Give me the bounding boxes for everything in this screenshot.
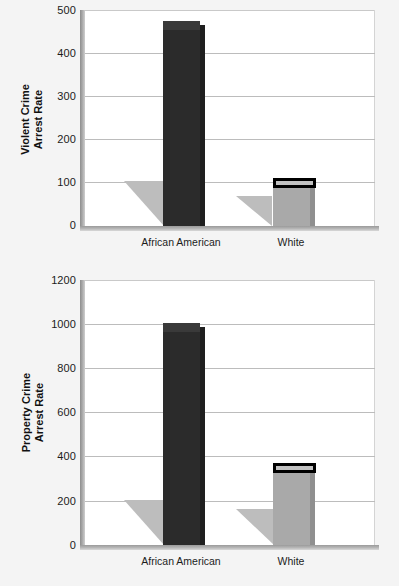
y-tick-property-1000: 1000	[42, 318, 76, 330]
y-tick-violent-400: 400	[48, 47, 76, 59]
x-label-white-property: White	[246, 555, 336, 567]
y-tick-property-1200: 1200	[42, 274, 76, 286]
bar-front-face-white-property	[273, 467, 310, 545]
plot-right-border-violent	[374, 10, 375, 226]
gridline-400-violent	[84, 53, 375, 54]
bar-side-face-african-american-violent	[200, 25, 205, 226]
y-axis-title-property: Property Crime Arrest Rate	[20, 363, 45, 463]
x-label-white-violent: White	[246, 236, 336, 248]
y-tick-violent-300: 300	[48, 90, 76, 102]
y-tick-property-600: 600	[42, 406, 76, 418]
bar-side-face-white-property	[310, 467, 315, 545]
bar-shadow-white-violent	[236, 196, 272, 226]
y-axis-wall-property	[80, 280, 85, 549]
bar-front-face-african-american-violent	[163, 25, 200, 226]
y-axis-wall-violent	[80, 10, 85, 230]
y-tick-violent-100: 100	[48, 176, 76, 188]
y-tick-violent-0: 0	[48, 219, 76, 231]
bar-top-face-white-violent	[273, 178, 316, 188]
y-axis-title-line2-property: Arrest Rate	[32, 363, 45, 463]
bar-side-face-white-violent	[310, 182, 315, 226]
y-tick-property-400: 400	[42, 450, 76, 462]
y-tick-property-800: 800	[42, 362, 76, 374]
x-axis-wall-violent	[80, 226, 379, 231]
bar-side-face-african-american-property	[200, 327, 205, 545]
x-label-african-american-property: African American	[121, 555, 241, 567]
y-axis-title-line2-violent: Arrest Rate	[31, 75, 44, 165]
gridline-400-property	[84, 456, 375, 457]
plot-top-border-property	[84, 280, 375, 281]
bar-top-face-white-property	[273, 463, 316, 473]
y-tick-property-0: 0	[42, 539, 76, 551]
chart-property-crime: 1200 1000 800 600 400 200 0 Property Cri…	[0, 265, 399, 586]
bar-african-american-violent	[163, 25, 200, 226]
bar-african-american-property	[163, 327, 200, 545]
bar-front-face-white-violent	[273, 182, 310, 226]
y-tick-violent-200: 200	[48, 133, 76, 145]
y-tick-property-200: 200	[42, 495, 76, 507]
x-axis-wall-property	[80, 545, 379, 550]
x-label-african-american-violent: African American	[121, 236, 241, 248]
plot-top-border-violent	[84, 10, 375, 11]
gridline-300-violent	[84, 96, 375, 97]
chart-violent-crime: 500 400 300 200 100 0 Violent Crime Arre…	[0, 0, 399, 252]
page-canvas: 500 400 300 200 100 0 Violent Crime Arre…	[0, 0, 399, 586]
bar-top-face-african-american-property	[163, 323, 200, 332]
bar-shadow-african-american-property	[124, 500, 164, 545]
gridline-200-violent	[84, 139, 375, 140]
y-axis-title-line1-property: Property Crime	[20, 363, 33, 463]
gridline-1000-property	[84, 324, 375, 325]
bar-top-face-african-american-violent	[163, 21, 200, 30]
gridline-800-property	[84, 368, 375, 369]
bar-white-property	[273, 467, 310, 545]
bar-shadow-african-american-violent	[124, 181, 164, 226]
y-axis-title-violent: Violent Crime Arrest Rate	[19, 75, 44, 165]
y-axis-title-line1-violent: Violent Crime	[19, 75, 32, 165]
bar-shadow-white-property	[236, 509, 274, 545]
gridline-600-property	[84, 412, 375, 413]
bar-front-face-african-american-property	[163, 327, 200, 545]
bar-white-violent	[273, 182, 310, 226]
y-tick-violent-500: 500	[48, 4, 76, 16]
